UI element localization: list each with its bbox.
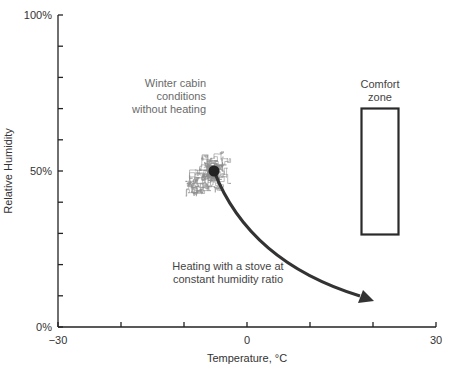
heating-label-line2: constant humidity ratio <box>173 273 283 285</box>
x-tick-label-max: 30 <box>430 334 442 346</box>
y-tick-label-0: 0% <box>36 321 52 333</box>
winter-label-line1: Winter cabin <box>145 77 206 89</box>
chart-canvas: 100% 50% 0% −30 0 30 Temperature, °C Rel… <box>0 0 449 371</box>
x-axis <box>58 322 436 327</box>
y-axis <box>58 15 63 327</box>
heating-label-line1: Heating with a stove at <box>172 260 283 272</box>
arrow-head-icon <box>358 290 374 303</box>
comfort-zone-box <box>362 109 399 235</box>
start-point-dot <box>209 166 220 177</box>
comfort-label-line2: zone <box>368 91 392 103</box>
winter-conditions-trace <box>186 152 231 196</box>
y-tick-label-100: 100% <box>24 9 52 21</box>
x-tick-label-zero: 0 <box>244 334 250 346</box>
x-axis-title: Temperature, °C <box>207 352 287 364</box>
y-tick-label-50: 50% <box>30 165 52 177</box>
winter-label-line2: conditions <box>156 90 206 102</box>
x-tick-label-min: −30 <box>49 334 68 346</box>
comfort-label-line1: Comfort <box>360 78 399 90</box>
y-axis-title: Relative Humidity <box>2 128 14 214</box>
winter-label-line3: without heating <box>131 103 206 115</box>
